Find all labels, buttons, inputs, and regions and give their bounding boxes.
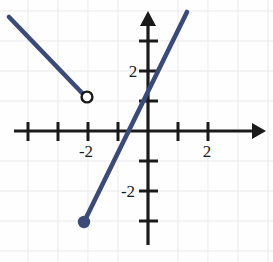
graph-figure: -2 2 2 -2 [0,0,273,262]
x-axis-arrow-icon [252,123,266,139]
open-endpoint-marker [82,92,93,103]
x-tick-label-two: 2 [203,142,212,161]
y-axis-arrow-icon [140,11,156,26]
closed-endpoint-marker [78,216,90,228]
x-tick-label-negative-two: -2 [79,142,93,161]
y-tick-label-negative-two: -2 [121,182,135,201]
y-tick-label-two: 2 [129,62,138,81]
descending-ray-segment [9,17,83,94]
coordinate-plane-svg: -2 2 2 -2 [0,0,273,262]
